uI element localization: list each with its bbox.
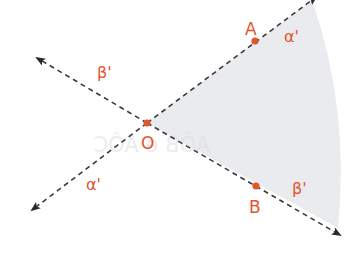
label-o: O — [141, 133, 154, 153]
label-b: B — [249, 197, 261, 217]
label-alpha-prime-upper: α' — [284, 27, 299, 46]
label-alpha-prime-lower: α' — [86, 175, 101, 194]
point-o — [143, 119, 150, 126]
point-b — [252, 182, 259, 189]
opposite-angles-diagram: AÔB e AÔC O A B α' β' α' β' — [0, 0, 357, 261]
ray-opposite-ob — [37, 58, 147, 123]
angle-aob-sector — [147, 0, 341, 228]
label-a: A — [245, 19, 257, 39]
ray-opposite-oa — [32, 123, 147, 210]
label-beta-prime-upper: β' — [97, 63, 112, 82]
label-beta-prime-lower: β' — [292, 179, 307, 198]
